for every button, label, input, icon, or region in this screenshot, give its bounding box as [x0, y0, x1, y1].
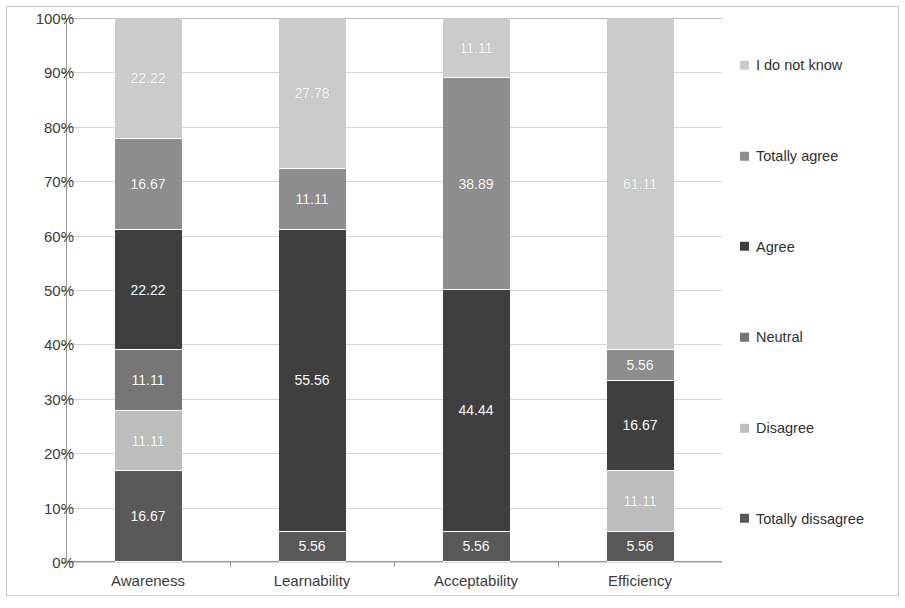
bar-segment[interactable]: 5.56: [607, 532, 674, 562]
bar-stack: 16.6711.1111.1122.2216.6722.22: [115, 18, 182, 562]
bar-segment[interactable]: 61.11: [607, 18, 674, 350]
bars-layer: 16.6711.1111.1122.2216.6722.225.5655.561…: [66, 18, 722, 562]
bar-segment[interactable]: 16.67: [607, 381, 674, 472]
legend-label: Totally dissagree: [756, 511, 864, 526]
legend-item[interactable]: Agree: [740, 239, 795, 254]
bar-segment-value-label: 11.11: [460, 41, 493, 55]
bar-segment[interactable]: 5.56: [607, 350, 674, 380]
bar-segment[interactable]: 27.78: [279, 18, 346, 169]
bar-segment[interactable]: 11.11: [443, 18, 510, 78]
stacked-bar-chart: 0%10%20%30%40%50%60%70%80%90%100% 16.671…: [0, 0, 905, 608]
bar-segment-value-label: 16.67: [130, 509, 165, 523]
bar-segment-value-label: 11.11: [296, 192, 329, 206]
bar-segment-value-label: 55.56: [294, 373, 329, 387]
bar-segment-value-label: 5.56: [626, 358, 653, 372]
legend-color-swatch: [740, 152, 749, 161]
category-divider-tick: [558, 562, 559, 567]
legend-item[interactable]: Disagree: [740, 421, 814, 436]
chart-legend: I do not knowTotally agreeAgreeNeutralDi…: [740, 18, 895, 562]
bar-segment[interactable]: 55.56: [279, 230, 346, 532]
bar-segment[interactable]: 5.56: [443, 532, 510, 562]
bar-stack: 5.5644.4438.8911.11: [443, 18, 510, 562]
bar-segment-value-label: 22.22: [130, 283, 165, 297]
bar-segment[interactable]: 5.56: [279, 532, 346, 562]
legend-item[interactable]: I do not know: [740, 58, 842, 73]
bar-segment-value-label: 27.78: [294, 86, 329, 100]
x-axis-category-label: Acceptability: [434, 572, 518, 589]
plot-area: 0%10%20%30%40%50%60%70%80%90%100% 16.671…: [66, 18, 722, 562]
bar-segment-value-label: 5.56: [626, 539, 653, 553]
x-axis-category-label: Efficiency: [608, 572, 672, 589]
bar-segment[interactable]: 22.22: [115, 18, 182, 139]
legend-color-swatch: [740, 333, 749, 342]
bar-segment[interactable]: 44.44: [443, 290, 510, 532]
bar-segment-value-label: 22.22: [130, 71, 165, 85]
bar-segment-value-label: 16.67: [622, 418, 657, 432]
legend-label: Disagree: [756, 421, 814, 436]
bar-stack: 5.5655.5611.1127.78: [279, 18, 346, 562]
legend-label: Agree: [756, 239, 795, 254]
category-divider-tick: [394, 562, 395, 567]
bar-group[interactable]: 5.5655.5611.1127.78: [279, 18, 346, 562]
bar-segment[interactable]: 11.11: [115, 350, 182, 410]
category-divider-tick: [230, 562, 231, 567]
bar-group[interactable]: 5.5611.1116.675.5661.11: [607, 18, 674, 562]
legend-color-swatch: [740, 242, 749, 251]
bar-segment[interactable]: 38.89: [443, 78, 510, 290]
legend-label: I do not know: [756, 58, 842, 73]
legend-color-swatch: [740, 424, 749, 433]
bar-group[interactable]: 5.5644.4438.8911.11: [443, 18, 510, 562]
bar-segment-value-label: 44.44: [458, 403, 493, 417]
legend-item[interactable]: Totally agree: [740, 149, 838, 164]
x-axis-category-label: Learnability: [274, 572, 351, 589]
bar-stack: 5.5611.1116.675.5661.11: [607, 18, 674, 562]
bar-group[interactable]: 16.6711.1111.1122.2216.6722.22: [115, 18, 182, 562]
legend-item[interactable]: Totally dissagree: [740, 511, 864, 526]
legend-item[interactable]: Neutral: [740, 330, 803, 345]
legend-color-swatch: [740, 514, 749, 523]
bar-segment[interactable]: 11.11: [279, 169, 346, 229]
bar-segment-value-label: 61.11: [623, 177, 657, 191]
legend-label: Totally agree: [756, 149, 838, 164]
bar-segment-value-label: 11.11: [132, 373, 165, 387]
legend-color-swatch: [740, 61, 749, 70]
bar-segment[interactable]: 22.22: [115, 230, 182, 351]
bar-segment-value-label: 38.89: [458, 177, 493, 191]
bar-segment[interactable]: 16.67: [115, 471, 182, 562]
x-axis-category-label: Awareness: [111, 572, 185, 589]
bar-segment[interactable]: 16.67: [115, 139, 182, 230]
bar-segment-value-label: 16.67: [130, 177, 165, 191]
bar-segment-value-label: 5.56: [462, 539, 489, 553]
bar-segment[interactable]: 11.11: [607, 471, 674, 531]
bar-segment-value-label: 5.56: [298, 539, 325, 553]
bar-segment[interactable]: 11.11: [115, 411, 182, 471]
bar-segment-value-label: 11.11: [132, 434, 165, 448]
legend-label: Neutral: [756, 330, 803, 345]
bar-segment-value-label: 11.11: [624, 494, 657, 508]
